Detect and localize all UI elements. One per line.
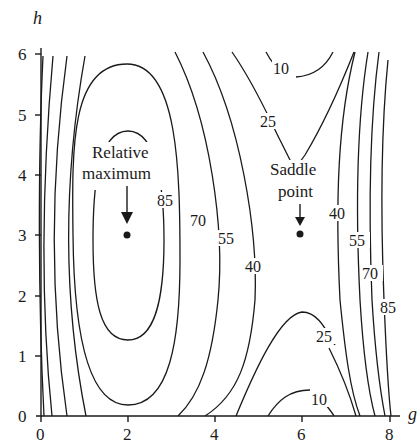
contour-left-outer-2 <box>44 56 53 416</box>
contour-85-right <box>382 60 391 416</box>
y-tick-2: 2 <box>18 287 27 306</box>
x-tick-8: 8 <box>385 425 394 444</box>
x-tick-0: 0 <box>36 425 45 444</box>
arrow-head-icon <box>295 217 305 226</box>
y-axis-label: h <box>33 8 42 28</box>
x-tick-2: 2 <box>123 425 132 444</box>
y-tick-3: 3 <box>18 226 27 245</box>
label-40-right: 40 <box>329 205 345 222</box>
label-70-right: 70 <box>362 265 378 282</box>
y-tick-6: 6 <box>18 45 27 64</box>
contour-25-bottom-right <box>329 348 356 416</box>
arrow-head-icon <box>121 212 133 224</box>
contour-lines <box>39 52 391 416</box>
relative-maximum-label-line1: Relative <box>92 143 149 162</box>
x-tick-6: 6 <box>297 425 306 444</box>
label-55-left: 55 <box>218 230 234 247</box>
contour-55-left <box>175 52 220 416</box>
saddle-point <box>297 231 304 238</box>
label-85-right: 85 <box>380 299 396 316</box>
y-tick-1: 1 <box>18 347 27 366</box>
x-axis-label: g <box>408 404 417 424</box>
contour-plot: 6 5 4 3 2 1 0 0 2 4 6 8 h g <box>0 0 417 445</box>
x-tick-4: 4 <box>210 425 219 444</box>
label-70-left: 70 <box>190 212 206 229</box>
label-25-bottom: 25 <box>316 328 332 345</box>
contour-left-outer-3 <box>54 56 67 416</box>
label-85-left: 85 <box>157 192 173 209</box>
relative-maximum-point <box>124 232 131 239</box>
label-40-left: 40 <box>245 258 261 275</box>
relative-maximum-label-line2: maximum <box>82 164 151 183</box>
contour-10-top-right <box>296 52 333 77</box>
label-10-bottom: 10 <box>311 391 327 408</box>
label-55-right: 55 <box>349 232 365 249</box>
y-tick-4: 4 <box>18 166 27 185</box>
label-25-top: 25 <box>260 113 276 130</box>
saddle-point-label-line2: point <box>278 182 313 201</box>
saddle-point-label-line1: Saddle <box>270 160 316 179</box>
contour-left-outer-4 <box>69 56 86 416</box>
y-tick-5: 5 <box>18 106 27 125</box>
label-10-top: 10 <box>273 60 289 77</box>
contour-10-bottom <box>268 390 310 416</box>
y-tick-0: 0 <box>18 407 27 426</box>
